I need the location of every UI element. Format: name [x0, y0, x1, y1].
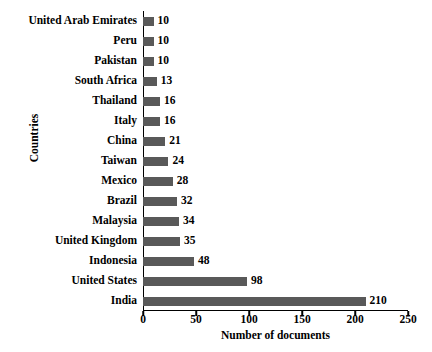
y-axis-label: United Kingdom: [55, 235, 137, 247]
bar-value-label: 10: [158, 55, 170, 67]
bar-row: 98: [143, 271, 262, 291]
bar-row: 34: [143, 211, 195, 231]
y-axis-label: South Africa: [75, 75, 137, 87]
y-axis-label: United States: [72, 275, 138, 287]
y-axis-label: Mexico: [101, 175, 137, 187]
y-axis-label: Malaysia: [92, 215, 137, 227]
y-axis-label: Peru: [113, 35, 137, 47]
bar: [143, 137, 165, 146]
bar: [143, 217, 179, 226]
bar-row: 16: [143, 91, 175, 111]
y-axis-label: China: [107, 135, 137, 147]
y-axis-label: Italy: [114, 115, 137, 127]
bar-value-label: 210: [370, 295, 387, 307]
bar-row: 210: [143, 291, 387, 311]
y-axis-label: Indonesia: [89, 255, 137, 267]
bar: [143, 177, 173, 186]
bar-row: 10: [143, 31, 169, 51]
y-axis-label: Brazil: [107, 195, 137, 207]
bar-row: 35: [143, 231, 196, 251]
bar: [143, 297, 366, 306]
bar-value-label: 13: [161, 75, 173, 87]
x-tick-label: 100: [240, 313, 257, 325]
y-axis-title: Countries: [28, 98, 40, 178]
bar-value-label: 28: [177, 175, 189, 187]
bar: [143, 277, 247, 286]
y-axis-label: India: [111, 295, 137, 307]
bar-row: 21: [143, 131, 181, 151]
bar: [143, 257, 194, 266]
bar-row: 24: [143, 151, 184, 171]
bar: [143, 57, 154, 66]
bar-value-label: 24: [172, 155, 184, 167]
bar: [143, 97, 160, 106]
bar-value-label: 48: [198, 255, 210, 267]
bar-value-label: 16: [164, 115, 176, 127]
bar-row: 28: [143, 171, 188, 191]
bar-row: 10: [143, 51, 169, 71]
y-axis-label: Taiwan: [101, 155, 137, 167]
bar-value-label: 16: [164, 95, 176, 107]
bar-row: 32: [143, 191, 192, 211]
bar: [143, 77, 157, 86]
bar-row: 16: [143, 111, 175, 131]
bar: [143, 197, 177, 206]
bar-value-label: 21: [169, 135, 181, 147]
bar-value-label: 98: [251, 275, 263, 287]
x-tick-label: 200: [346, 313, 363, 325]
x-tick-label: 150: [293, 313, 310, 325]
bar: [143, 37, 154, 46]
x-tick-label: 250: [399, 313, 416, 325]
bar-value-label: 34: [183, 215, 195, 227]
bar-value-label: 32: [181, 195, 193, 207]
bar-chart: Countries United Arab EmiratesPeruPakist…: [0, 0, 432, 352]
bar-value-label: 10: [158, 35, 170, 47]
bar: [143, 237, 180, 246]
x-tick-label: 50: [190, 313, 202, 325]
bar: [143, 117, 160, 126]
bar: [143, 157, 168, 166]
x-axis-title: Number of documents: [143, 329, 408, 341]
y-axis-label: United Arab Emirates: [28, 15, 137, 27]
bar-row: 48: [143, 251, 209, 271]
y-axis-label: Pakistan: [94, 55, 137, 67]
y-axis-label: Thailand: [92, 95, 137, 107]
bar-value-label: 10: [158, 15, 170, 27]
bar-row: 13: [143, 71, 172, 91]
bar: [143, 17, 154, 26]
bar-value-label: 35: [184, 235, 196, 247]
bar-row: 10: [143, 11, 169, 31]
x-tick-label: 0: [140, 313, 146, 325]
